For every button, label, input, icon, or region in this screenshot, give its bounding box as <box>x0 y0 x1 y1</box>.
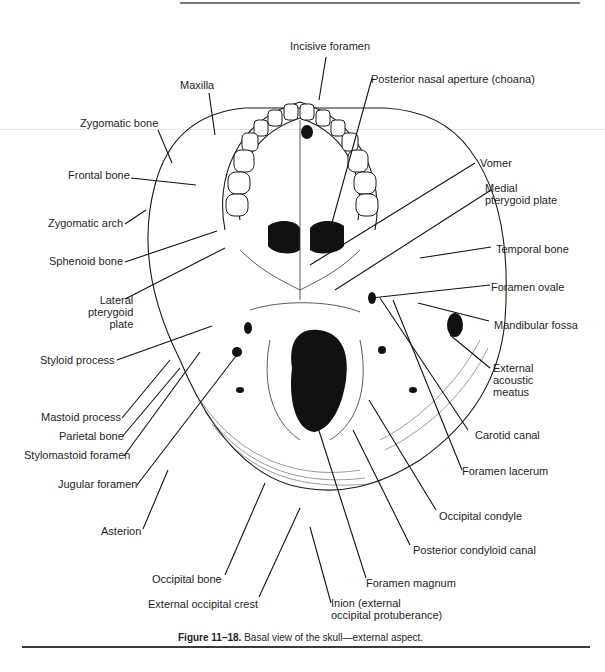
label-inion: Inion (external occipital protuberance) <box>331 597 442 621</box>
label-incisive-foramen: Incisive foramen <box>290 40 370 52</box>
figure-caption: Figure 11–18. Basal view of the skull—ex… <box>178 632 423 643</box>
incisive-foramen-opening <box>301 125 313 139</box>
choana-right <box>310 221 344 254</box>
teeth <box>226 104 378 216</box>
label-zygomatic-arch: Zygomatic arch <box>48 217 123 229</box>
label-frontal-bone: Frontal bone <box>68 169 130 181</box>
label-jugular-foramen: Jugular foramen <box>58 478 138 490</box>
label-maxilla: Maxilla <box>180 79 214 91</box>
label-lateral-pterygoid-plate: Lateral pterygoid plate <box>88 294 133 330</box>
label-posterior-nasal-aperture: Posterior nasal aperture (choana) <box>371 73 535 85</box>
figure-number: Figure 11–18. <box>178 632 241 643</box>
label-foramen-lacerum: Foramen lacerum <box>462 465 548 477</box>
label-occipital-bone: Occipital bone <box>152 573 222 585</box>
label-temporal-bone: Temporal bone <box>496 243 569 255</box>
skull-outline <box>148 108 506 490</box>
label-stylomastoid-foramen: Stylomastoid foramen <box>24 449 130 461</box>
external-acoustic-meatus-opening <box>447 313 463 337</box>
leader-lines <box>117 57 491 603</box>
label-asterion: Asterion <box>101 525 141 537</box>
label-foramen-magnum: Foramen magnum <box>366 577 456 589</box>
label-sphenoid-bone: Sphenoid bone <box>49 255 123 267</box>
label-posterior-condyloid-canal: Posterior condyloid canal <box>413 544 536 556</box>
label-parietal-bone: Parietal bone <box>59 430 124 442</box>
label-carotid-canal: Carotid canal <box>475 429 540 441</box>
label-external-occipital-crest: External occipital crest <box>148 598 258 610</box>
label-foramen-ovale: Foramen ovale <box>491 281 564 293</box>
label-zygomatic-bone: Zygomatic bone <box>80 117 158 129</box>
label-styloid-process: Styloid process <box>40 354 115 366</box>
label-occipital-condyle: Occipital condyle <box>439 510 522 522</box>
label-external-acoustic-meatus: External acoustic meatus <box>493 362 533 398</box>
bottom-rule <box>22 646 590 648</box>
foramen-magnum-opening <box>291 330 347 432</box>
label-mandibular-fossa: Mandibular fossa <box>494 319 578 331</box>
label-medial-pterygoid-plate: Medial pterygoid plate <box>485 182 557 206</box>
choana-left <box>268 221 300 254</box>
label-mastoid-process: Mastoid process <box>41 411 121 423</box>
label-vomer: Vomer <box>480 157 512 169</box>
skull-basal-view-drawing <box>0 0 605 672</box>
figure-caption-text: Basal view of the skull—external aspect. <box>244 632 423 643</box>
